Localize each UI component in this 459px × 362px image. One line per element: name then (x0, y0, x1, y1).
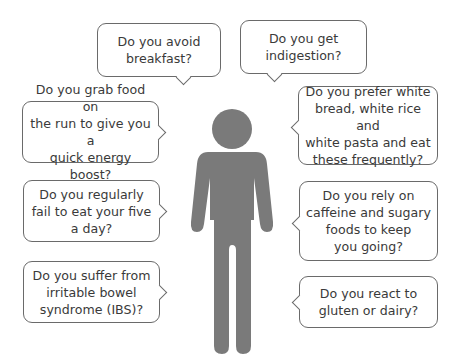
speech-bubble-five-a-day: Do you regularly fail to eat your five a… (23, 180, 160, 242)
speech-bubble-gluten-dairy: Do you react to gluten or dairy? (299, 276, 438, 328)
speech-bubble-caffeine: Do you rely on caffeine and sugary foods… (299, 181, 438, 261)
speech-bubble-avoid-breakfast: Do you avoid breakfast? (97, 23, 221, 77)
bubble-text: Do you suffer from irritable bowel syndr… (32, 267, 150, 318)
bubble-text: Do you get indigestion? (265, 30, 341, 64)
speech-bubble-ibs: Do you suffer from irritable bowel syndr… (23, 261, 160, 323)
speech-bubble-grab-food: Do you grab food on the run to give you … (22, 101, 159, 163)
diagram-stage: Do you avoid breakfast? Do you get indig… (0, 0, 459, 362)
bubble-text: Do you rely on caffeine and sugary foods… (306, 187, 431, 255)
bubble-text: Do you regularly fail to eat your five a… (32, 186, 152, 237)
bubble-text: Do you react to gluten or dairy? (319, 285, 419, 319)
bubble-text: Do you prefer white bread, white rice an… (305, 83, 431, 168)
speech-bubble-indigestion: Do you get indigestion? (240, 20, 367, 74)
bubble-text: Do you grab food on the run to give you … (29, 81, 152, 183)
bubble-text: Do you avoid breakfast? (118, 33, 201, 67)
speech-bubble-white-bread: Do you prefer white bread, white rice an… (298, 86, 438, 165)
